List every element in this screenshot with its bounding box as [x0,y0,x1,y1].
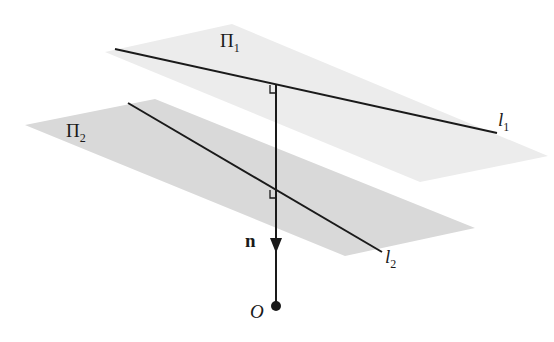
arrowhead-icon [270,238,282,253]
label-normal-n: n [245,230,256,251]
label-origin: O [250,301,264,322]
label-l2: l2 [385,246,396,271]
diagram-canvas: Π1 Π2 l1 l2 n O [0,0,554,342]
origin-point [271,301,281,311]
label-l1: l1 [498,109,509,134]
